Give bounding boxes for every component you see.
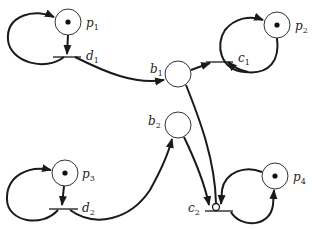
place-b2: [165, 112, 191, 138]
loop-p4-c2: [231, 190, 274, 223]
label-p1: p1: [86, 16, 99, 32]
label-p3: p3: [82, 167, 95, 183]
label-b1: b1: [150, 62, 163, 78]
label-p2: p2: [295, 19, 308, 35]
label-c1: c1: [238, 51, 250, 67]
label-b2: b2: [148, 114, 161, 130]
arc-p4-c2: [221, 169, 262, 204]
label-c2: c2: [188, 201, 200, 217]
token-p3: [62, 170, 67, 175]
token-p2: [274, 22, 279, 27]
token-p1: [65, 19, 70, 24]
place-b1: [165, 61, 191, 87]
label-d2: d2: [82, 201, 95, 217]
token-p4: [272, 173, 277, 178]
inhibitor-circle: [213, 204, 220, 211]
label-d1: d1: [86, 49, 99, 65]
label-p4: p4: [293, 170, 306, 186]
inhibitor-arc-b1-c2: [186, 85, 216, 203]
arc-b2-c2: [184, 137, 209, 205]
petri-net-diagram: p1 p2 p3 p4 b1 b2 d1 d2 c1 c2: [0, 0, 312, 229]
arc-b1-c1: [191, 63, 210, 70]
